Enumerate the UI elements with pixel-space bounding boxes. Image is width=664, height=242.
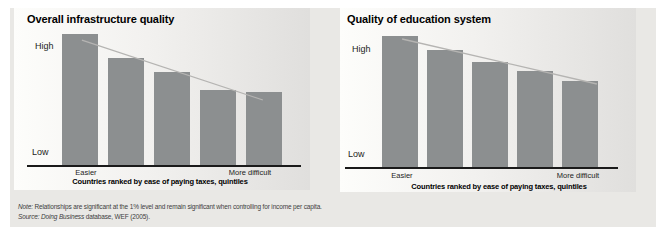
- bar-quintile-4: [200, 90, 236, 165]
- figure-page: { "colors": { "bar": "#8c8f90", "trendli…: [0, 0, 664, 242]
- plot-area-education: [345, 8, 617, 167]
- bar-quintile-3: [472, 62, 508, 167]
- source-prefix: Source: Doing Business: [18, 213, 84, 220]
- bar-quintile-5: [246, 92, 282, 165]
- bar-quintile-3: [154, 72, 190, 165]
- x-label-easier-left: Easier: [56, 168, 116, 177]
- bar-quintile-1: [382, 36, 418, 167]
- x-label-easier-right: Easier: [372, 171, 432, 180]
- note-body: Relationships are significant at the 1% …: [33, 203, 322, 210]
- x-label-more-difficult-right: More difficult: [528, 171, 628, 180]
- x-axis-title-right: Countries ranked by ease of paying taxes…: [349, 182, 649, 191]
- bar-quintile-2: [108, 58, 144, 165]
- bar-quintile-2: [427, 50, 463, 167]
- figure-panel: Overall infrastructure quality Quality o…: [10, 8, 656, 227]
- plot-area-infrastructure: [27, 8, 300, 165]
- note-prefix: Note:: [18, 203, 33, 210]
- x-label-more-difficult-left: More difficult: [200, 168, 300, 177]
- x-axis-line-left: [27, 165, 301, 167]
- source-line: Source: Doing Business database, WEF (20…: [18, 212, 322, 222]
- bar-quintile-4: [517, 71, 553, 167]
- x-axis-title-left: Countries ranked by ease of paying taxes…: [10, 177, 310, 186]
- source-body: database, WEF (2005).: [84, 213, 150, 220]
- bar-quintile-5: [562, 81, 598, 167]
- figure-footnote: Note: Relationships are significant at t…: [18, 202, 322, 223]
- bar-quintile-1: [62, 34, 98, 165]
- x-axis-line-right: [345, 167, 618, 169]
- note-line: Note: Relationships are significant at t…: [18, 202, 322, 212]
